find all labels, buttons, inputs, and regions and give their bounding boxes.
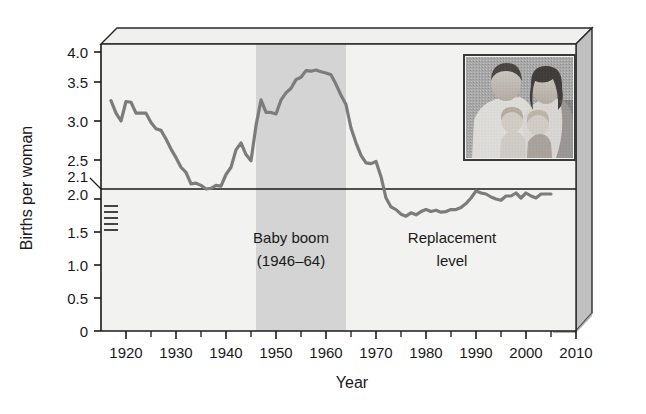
y-tick-label-1-5: 1.5	[67, 224, 88, 241]
y-axis-ticks	[90, 52, 101, 331]
y-tick-label-0: 0	[80, 323, 88, 340]
x-tick-label-1970: 1970	[359, 344, 392, 361]
y-tick-label-3-5: 3.5	[67, 74, 88, 91]
chart-canvas: 4.0 3.5 3.0 2.5 2.1 2.0 1.5 1.0 0.5 0 19…	[0, 0, 646, 414]
fertility-rate-chart-figure: 4.0 3.5 3.0 2.5 2.1 2.0 1.5 1.0 0.5 0 19…	[0, 0, 646, 414]
baby-boom-label-line2: (1946–64)	[257, 252, 325, 269]
family-photo-inset	[464, 55, 575, 160]
x-tick-label-1920: 1920	[109, 344, 142, 361]
y-tick-label-2-1: 2.1	[67, 168, 88, 185]
y-tick-label-0-5: 0.5	[67, 290, 88, 307]
y-tick-label-1-0: 1.0	[67, 257, 88, 274]
y-tick-label-2-5: 2.5	[67, 152, 88, 169]
y-tick-label-4-0: 4.0	[67, 44, 88, 61]
x-tick-label-1940: 1940	[209, 344, 242, 361]
y-tick-label-2-0: 2.0	[67, 186, 88, 203]
y-axis-title: Births per woman	[18, 126, 35, 251]
x-axis-title: Year	[336, 374, 369, 391]
photo-grain-overlay	[466, 57, 573, 158]
x-tick-label-2010: 2010	[559, 344, 592, 361]
x-axis-tick-labels: 1920193019401950196019701980199020002010	[109, 344, 592, 361]
y-tick-2-1-leader	[90, 178, 101, 189]
x-tick-label-1960: 1960	[309, 344, 342, 361]
replacement-level-label-line2: level	[437, 252, 468, 269]
x-tick-label-1950: 1950	[259, 344, 292, 361]
x-tick-label-1990: 1990	[459, 344, 492, 361]
frame-top-face	[101, 28, 592, 44]
frame-right-face	[576, 28, 592, 331]
baby-boom-label-line1: Baby boom	[253, 229, 329, 246]
x-tick-label-1930: 1930	[159, 344, 192, 361]
replacement-level-label-line1: Replacement	[408, 229, 497, 246]
x-axis-minor-ticks	[151, 331, 551, 337]
baby-boom-band	[256, 44, 346, 331]
x-tick-label-2000: 2000	[509, 344, 542, 361]
y-tick-label-3-0: 3.0	[67, 113, 88, 130]
y-axis-tick-labels: 4.0 3.5 3.0 2.5 2.1 2.0 1.5 1.0 0.5 0	[67, 44, 88, 340]
x-tick-label-1980: 1980	[409, 344, 442, 361]
